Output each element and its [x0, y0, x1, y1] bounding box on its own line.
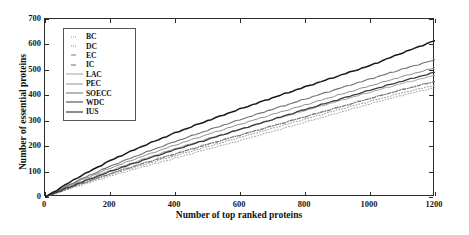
legend-label: SOECC — [86, 89, 112, 98]
x-axis-title: Number of top ranked proteins — [44, 210, 434, 220]
legend-item-ic[interactable]: IC — [66, 60, 132, 69]
legend-swatch-ic — [66, 60, 83, 69]
legend-label: EC — [86, 51, 96, 60]
y-tick-mark — [429, 172, 433, 173]
legend-label: WDC — [86, 98, 104, 107]
legend-swatch-bc — [66, 32, 83, 41]
x-tick-label: 1200 — [426, 199, 443, 209]
x-tick-mark — [240, 192, 241, 196]
x-tick-mark — [175, 192, 176, 196]
legend-item-dc[interactable]: DC — [66, 41, 132, 50]
legend-label: PEC — [86, 79, 101, 88]
x-tick-label: 400 — [168, 199, 181, 209]
legend-item-ec[interactable]: EC — [66, 51, 132, 60]
legend-label: IUS — [86, 107, 98, 116]
y-tick-mark — [45, 197, 49, 198]
legend-swatch-soecc — [66, 89, 83, 98]
legend-label: DC — [86, 42, 97, 51]
legend-swatch-dc — [66, 42, 83, 51]
legend-item-bc[interactable]: BC — [66, 32, 132, 41]
legend-swatch-lac — [66, 70, 83, 79]
x-tick-label: 600 — [233, 199, 246, 209]
x-tick-mark — [305, 192, 306, 196]
legend-item-wdc[interactable]: WDC — [66, 98, 132, 107]
y-axis-title: Number of essential proteins — [18, 27, 28, 197]
x-tick-mark — [175, 19, 176, 23]
x-tick-mark — [370, 19, 371, 23]
x-tick-mark — [435, 192, 436, 196]
y-tick-label: 100 — [41, 166, 54, 176]
x-tick-mark — [110, 192, 111, 196]
legend-item-pec[interactable]: PEC — [66, 79, 132, 88]
legend-swatch-wdc — [66, 98, 83, 107]
y-tick-label: 500 — [41, 64, 54, 74]
y-tick-label: 300 — [41, 115, 54, 125]
y-tick-mark — [429, 70, 433, 71]
legend-label: BC — [86, 32, 96, 41]
x-tick-mark — [435, 19, 436, 23]
x-tick-mark — [110, 19, 111, 23]
legend-swatch-ec — [66, 51, 83, 60]
legend: BCDCECICLACPECSOECCWDCIUS — [63, 28, 136, 121]
legend-label: LAC — [86, 70, 102, 79]
y-tick-mark — [429, 197, 433, 198]
y-tick-label: 400 — [41, 89, 54, 99]
y-tick-mark — [429, 19, 433, 20]
legend-swatch-ius — [66, 107, 83, 116]
legend-item-ius[interactable]: IUS — [66, 107, 132, 116]
legend-item-lac[interactable]: LAC — [66, 70, 132, 79]
legend-item-soecc[interactable]: SOECC — [66, 88, 132, 97]
figure: Number of essential proteins Number of t… — [0, 0, 469, 235]
y-tick-mark — [429, 146, 433, 147]
x-tick-mark — [370, 192, 371, 196]
y-tick-label: 600 — [41, 38, 54, 48]
y-tick-label: 0 — [41, 191, 45, 201]
x-tick-label: 1000 — [361, 199, 378, 209]
y-tick-label: 700 — [41, 13, 54, 23]
x-tick-label: 800 — [298, 199, 311, 209]
y-tick-mark — [429, 44, 433, 45]
y-tick-mark — [429, 121, 433, 122]
legend-swatch-pec — [66, 79, 83, 88]
y-tick-label: 200 — [41, 140, 54, 150]
y-tick-mark — [429, 95, 433, 96]
x-tick-mark — [305, 19, 306, 23]
x-tick-label: 200 — [103, 199, 116, 209]
x-tick-mark — [240, 19, 241, 23]
legend-label: IC — [86, 60, 94, 69]
